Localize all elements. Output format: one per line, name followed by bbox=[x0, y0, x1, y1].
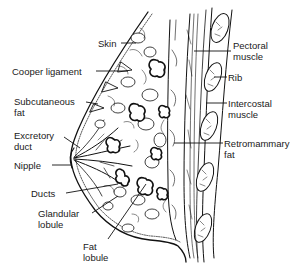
label-cooper-ligament: Cooper ligament bbox=[12, 66, 82, 77]
label-nipple: Nipple bbox=[14, 160, 41, 171]
label-rib: Rib bbox=[228, 72, 242, 83]
label-skin: Skin bbox=[98, 38, 116, 49]
label-glandular-lobule: Glandular lobule bbox=[38, 208, 79, 230]
label-pectoral-muscle: Pectoral muscle bbox=[233, 40, 268, 62]
label-excretory-duct: Excretory duct bbox=[14, 130, 54, 152]
retromammary-fat-band bbox=[168, 20, 177, 240]
label-retromammary-fat: Retromammary fat bbox=[224, 138, 289, 160]
label-subcutaneous-fat: Subcutaneous fat bbox=[14, 96, 75, 118]
label-fat-lobule: Fat lobule bbox=[83, 241, 108, 263]
label-ducts: Ducts bbox=[31, 188, 55, 199]
label-intercostal-muscle: Intercostal muscle bbox=[228, 98, 272, 120]
connective-tissue-texture bbox=[98, 28, 166, 222]
chest-wall bbox=[191, 8, 233, 262]
rib-shapes bbox=[191, 11, 233, 244]
